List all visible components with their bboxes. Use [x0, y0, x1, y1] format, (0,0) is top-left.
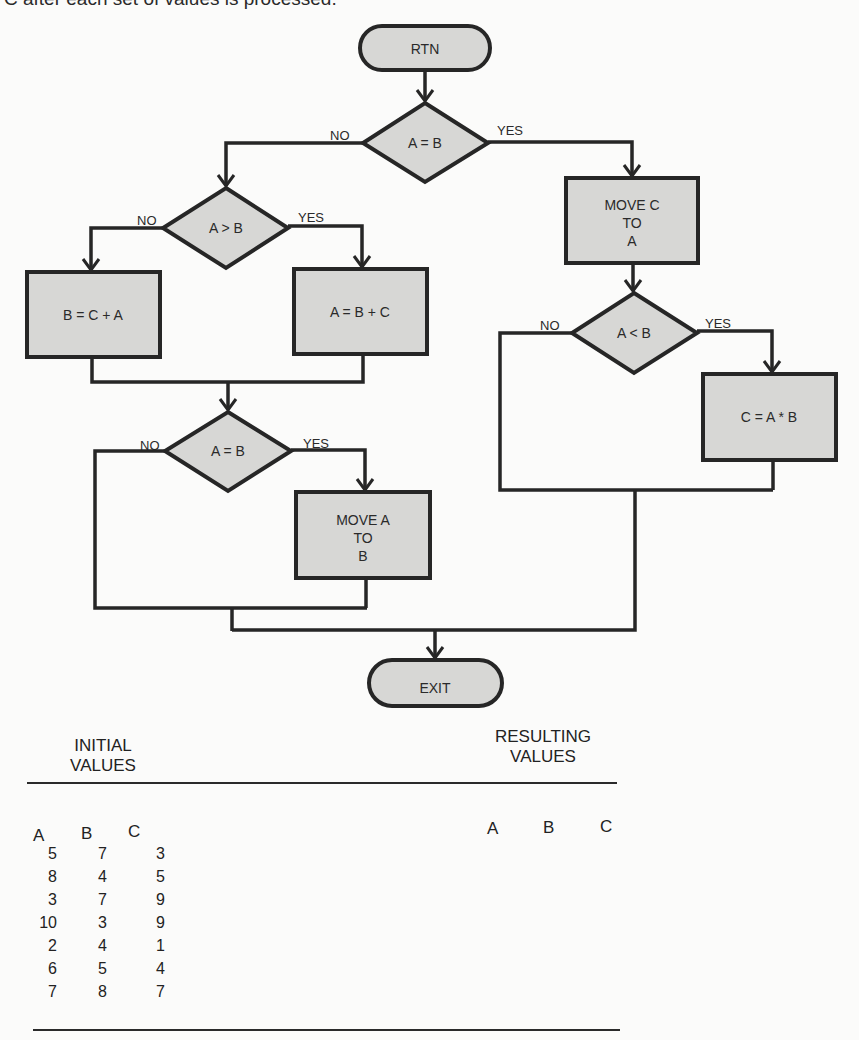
svg-text:A < B: A < B [617, 325, 651, 341]
resulting-values-header: RESULTING VALUES [478, 727, 608, 767]
initial-col-c: C [128, 822, 140, 842]
decision-a-equals-b-top: A = B [363, 103, 488, 182]
process-move-a-to-b: MOVE A TO B [296, 492, 430, 578]
svg-text:A = B: A = B [408, 135, 442, 151]
svg-text:TO: TO [353, 530, 372, 546]
svg-text:MOVE A: MOVE A [336, 512, 390, 528]
process-a-equals-b-plus-c: A = B + C [294, 269, 427, 354]
start-label: RTN [411, 41, 440, 57]
initial-col-b: B [81, 824, 92, 844]
svg-text:B: B [358, 548, 367, 564]
branch-yes-label: YES [705, 316, 731, 331]
decision-a-equals-b-bottom: A = B [165, 412, 291, 491]
branch-yes-label: YES [497, 123, 523, 138]
svg-text:B = C + A: B = C + A [63, 307, 124, 323]
process-c-equals-a-times-b: C = A * B [703, 374, 836, 460]
decision-a-greater-than-b: A > B [163, 188, 288, 268]
svg-text:A > B: A > B [209, 220, 243, 236]
table-bottom-rule [33, 1029, 620, 1031]
flowchart: RTN A = B NO YES MOVE C TO A A < B NO YE… [0, 0, 859, 720]
svg-text:A = B: A = B [211, 443, 245, 459]
end-label: EXIT [419, 680, 451, 696]
branch-no-label: NO [540, 318, 560, 333]
branch-yes-label: YES [298, 210, 324, 225]
branch-no-label: NO [137, 213, 157, 228]
resulting-col-b: B [543, 818, 554, 838]
end-terminal: EXIT [369, 660, 502, 706]
resulting-col-c: C [600, 817, 612, 837]
svg-text:A = B + C: A = B + C [330, 304, 390, 320]
table-top-rule [27, 782, 617, 784]
resulting-col-a: A [487, 819, 498, 839]
process-move-c-to-a: MOVE C TO A [566, 178, 698, 263]
svg-text:MOVE C: MOVE C [604, 197, 659, 213]
process-b-equals-c-plus-a: B = C + A [27, 272, 160, 357]
svg-text:A: A [627, 233, 637, 249]
initial-values-header: INITIAL VALUES [48, 736, 158, 776]
decision-a-less-than-b: A < B [572, 293, 697, 373]
start-terminal: RTN [360, 26, 490, 70]
svg-text:TO: TO [622, 215, 641, 231]
branch-no-label: NO [330, 128, 350, 143]
initial-col-a: A [33, 826, 44, 846]
svg-text:C = A * B: C = A * B [741, 409, 797, 425]
